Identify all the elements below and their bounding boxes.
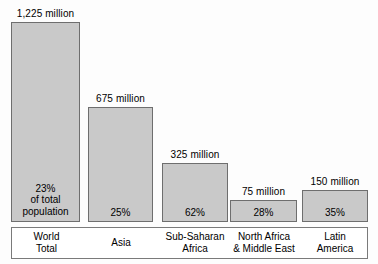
- category-line2-north-africa-middle-east: & Middle East: [233, 243, 295, 255]
- bar-group-world-total: 1,225 million 23% of total population: [11, 22, 80, 222]
- category-line1-north-africa-middle-east: North Africa: [238, 231, 290, 243]
- bar-percent-label-north-africa-middle-east: 28%: [231, 207, 296, 219]
- bar-group-sub-saharan-africa: 325 million 62%: [162, 163, 228, 222]
- category-label-asia: Asia: [88, 228, 154, 258]
- category-line2-sub-saharan-africa: Africa: [182, 243, 208, 255]
- category-line2-world-total: Total: [36, 243, 57, 255]
- bar-rect-asia[interactable]: 25%: [88, 107, 153, 222]
- category-axis-box: World Total Asia Sub-Saharan Africa Nort…: [11, 227, 368, 259]
- bar-value-label-sub-saharan-africa: 325 million: [171, 149, 220, 161]
- category-label-sub-saharan-africa: Sub-Saharan Africa: [162, 228, 228, 258]
- bar-value-label-latin-america: 150 million: [311, 176, 360, 188]
- bar-group-latin-america: 150 million 35%: [302, 190, 368, 222]
- bar-rect-sub-saharan-africa[interactable]: 62%: [162, 163, 228, 222]
- bar-percent-line1-world-total: 23%: [12, 183, 79, 195]
- category-label-world-total: World Total: [12, 228, 81, 258]
- bar-chart: 1,225 million 23% of total population 67…: [0, 0, 378, 264]
- category-line1-world-total: World: [34, 231, 60, 243]
- category-line1-asia: Asia: [111, 237, 130, 249]
- bar-rect-north-africa-middle-east[interactable]: 28%: [230, 200, 297, 222]
- bar-percent-label-world-total: 23% of total population: [12, 183, 79, 218]
- bar-value-label-world-total: 1,225 million: [17, 8, 74, 20]
- bar-rect-latin-america[interactable]: 35%: [302, 190, 368, 222]
- category-line1-latin-america: Latin: [324, 231, 346, 243]
- category-line2-latin-america: America: [317, 243, 354, 255]
- category-label-latin-america: Latin America: [302, 228, 368, 258]
- plot-area: 1,225 million 23% of total population 67…: [0, 0, 378, 224]
- bar-rect-world-total[interactable]: 23% of total population: [11, 22, 80, 222]
- bar-value-label-asia: 675 million: [96, 93, 145, 105]
- bar-value-label-north-africa-middle-east: 75 million: [242, 186, 285, 198]
- category-label-north-africa-middle-east: North Africa & Middle East: [230, 228, 298, 258]
- bar-group-asia: 675 million 25%: [88, 107, 153, 222]
- bar-percent-label-asia: 25%: [89, 207, 152, 219]
- bar-percent-label-sub-saharan-africa: 62%: [163, 207, 227, 219]
- bar-percent-line2-world-total: of total: [12, 194, 79, 206]
- bar-percent-label-latin-america: 35%: [303, 207, 367, 219]
- bar-group-north-africa-middle-east: 75 million 28%: [230, 200, 297, 222]
- category-line1-sub-saharan-africa: Sub-Saharan: [166, 231, 225, 243]
- bar-percent-line3-world-total: population: [12, 206, 79, 218]
